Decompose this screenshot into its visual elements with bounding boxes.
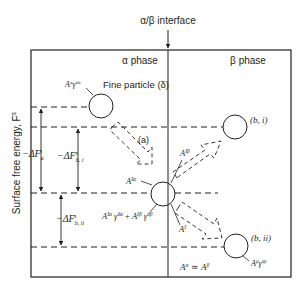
b-ii-energy-label: Aβγδβ [250, 259, 267, 268]
b-i-label: (b, i) [250, 115, 268, 125]
energy-difference-arrows [41, 109, 78, 245]
fine-particle-energy-label: Aαγδα [64, 80, 81, 89]
interface-A-Ib-label: AIβ [179, 148, 190, 158]
dFbii-label: −ΔFb, iis [56, 213, 84, 226]
b-i-particle-circle [223, 115, 247, 139]
beta-phase-label: β phase [230, 55, 266, 66]
interface-title: α/β interface [140, 15, 196, 26]
b-ii-particle-circle [224, 234, 248, 258]
fine-particle-label: Fine particle (δ) [103, 79, 169, 90]
interface-energy-diagram: α/β interface α phase β phase Surface fr… [0, 0, 303, 295]
interface-A-I-label: AI [178, 224, 187, 234]
fine-particle-circle [89, 94, 113, 118]
interface-particle-circle [151, 182, 175, 206]
A-Ia-leader [141, 181, 152, 185]
svg-text:Surface free energy, Fs: Surface free energy, Fs [10, 111, 22, 214]
interface-energy-expression: AIα γδα + AIβ γδβ [101, 211, 153, 221]
b-ii-leader [243, 256, 249, 261]
alpha-phase-label: α phase [122, 55, 158, 66]
arrow-path-b-i [173, 141, 221, 178]
path-a-label: (a) [138, 135, 149, 145]
fine-particle-leader [86, 88, 93, 95]
area-relation: Aα ≃ Aβ [179, 262, 209, 272]
y-axis-label: Surface free energy, Fs [10, 111, 22, 214]
A-Ib-leader [171, 160, 182, 183]
dFa-label: −ΔFas [22, 148, 44, 161]
interface-A-Ia-label: AIα [125, 176, 136, 186]
dFbi-label: −ΔFb, is [57, 150, 84, 163]
b-ii-label: (b, ii) [251, 233, 271, 243]
